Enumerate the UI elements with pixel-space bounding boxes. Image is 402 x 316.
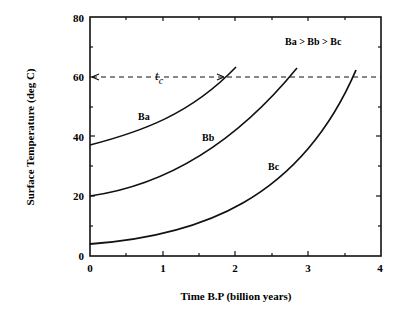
- x-axis-title: Time B.P (billion years): [180, 290, 291, 303]
- y-tick-0: 0: [79, 250, 85, 262]
- plot-frame: [90, 17, 381, 256]
- y-axis-title: Surface Temperature (deg C): [24, 68, 37, 205]
- curve-bc: [90, 70, 356, 244]
- x-ticks: [126, 17, 345, 256]
- temperature-chart: 0 1 2 3 4 0 20 40 60 80 Time B.P (billio…: [0, 0, 402, 316]
- curve-label-bc: Bc: [268, 161, 280, 172]
- x-tick-3: 3: [305, 262, 311, 274]
- y-ticks: [90, 47, 381, 226]
- relation-annotation: Ba > Bb > Bc: [285, 36, 342, 47]
- x-tick-0: 0: [87, 262, 93, 274]
- curve-label-bb: Bb: [202, 132, 215, 143]
- x-tick-1: 1: [160, 262, 166, 274]
- y-tick-40: 40: [73, 131, 85, 143]
- y-tick-80: 80: [73, 12, 85, 24]
- y-tick-60: 60: [73, 71, 85, 83]
- tc-label: tc: [155, 68, 164, 86]
- x-tick-2: 2: [232, 262, 238, 274]
- x-tick-4: 4: [377, 262, 383, 274]
- curve-label-ba: Ba: [138, 111, 150, 122]
- curve-bb: [90, 68, 297, 196]
- y-tick-20: 20: [73, 190, 85, 202]
